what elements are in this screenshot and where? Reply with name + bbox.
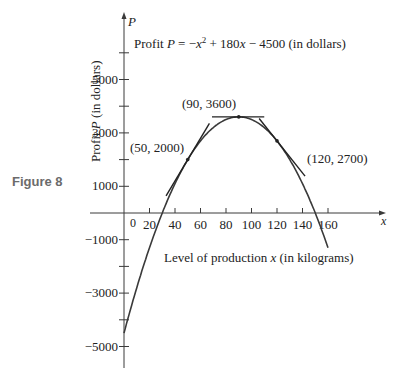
x-tick-label: 100 [242,217,262,232]
profit-chart: Figure 8 204060801001201401600−5000−3000… [0,0,403,386]
y-tick-label: 1000 [92,178,118,193]
y-axis-name: P [127,14,136,29]
axes [90,12,386,368]
y-tick-label: −5000 [85,339,118,354]
y-axis-arrow-icon [122,12,127,19]
point-label-peak: (90, 3600) [182,96,236,111]
y-tick-label: −3000 [85,285,118,300]
tangent-point [186,158,190,162]
tangent-line [259,118,305,176]
tangent-lines [166,115,305,196]
point-label-right: (120, 2700) [307,151,368,166]
x-axis-name: x [380,214,387,228]
x-tick-label: 20 [143,217,156,232]
chart-title: Profit P = −x2 + 180x − 4500 (in dollars… [134,35,346,51]
point-label-left: (50, 2000) [130,140,184,155]
x-tick-label: 60 [194,217,207,232]
x-axis-label: Level of production x (in kilograms) [164,250,354,265]
y-tick-label: −1000 [85,232,118,247]
origin-label: 0 [130,216,136,230]
tangent-point [237,115,241,119]
x-tick-label: 80 [220,217,233,232]
y-axis-label: Profit P (in dollars) [88,61,103,162]
x-tick-label: 140 [293,217,313,232]
x-tick-label: 40 [169,217,182,232]
x-tick-label: 120 [267,217,287,232]
figure-label: Figure 8 [12,174,63,189]
tangent-point [275,139,279,143]
